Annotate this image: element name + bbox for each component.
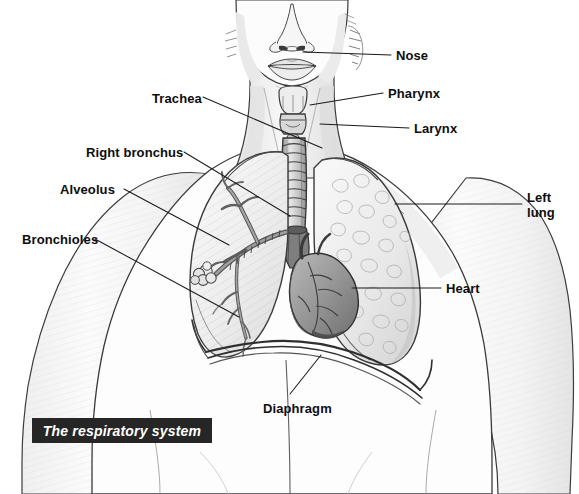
label-right-bronchus: Right bronchus: [86, 145, 183, 160]
left-sideburn-hatching: [225, 30, 237, 57]
label-left-lung: Left lung: [527, 190, 555, 220]
caption-text: The respiratory system: [43, 423, 201, 439]
label-bronchioles: Bronchioles: [22, 232, 98, 247]
label-diaphragm: Diaphragm: [263, 401, 332, 416]
label-nose: Nose: [396, 48, 428, 63]
respiratory-system-figure: Nose Pharynx Larynx Trachea Right bronch…: [0, 0, 579, 494]
ear-hatching: [345, 14, 363, 70]
label-larynx: Larynx: [414, 121, 457, 136]
label-trachea: Trachea: [152, 91, 202, 106]
caption-bar: The respiratory system: [32, 418, 212, 443]
label-alveolus: Alveolus: [60, 182, 115, 197]
label-pharynx: Pharynx: [388, 86, 440, 101]
pharynx-anatomy: [279, 86, 307, 114]
label-heart: Heart: [446, 281, 480, 296]
